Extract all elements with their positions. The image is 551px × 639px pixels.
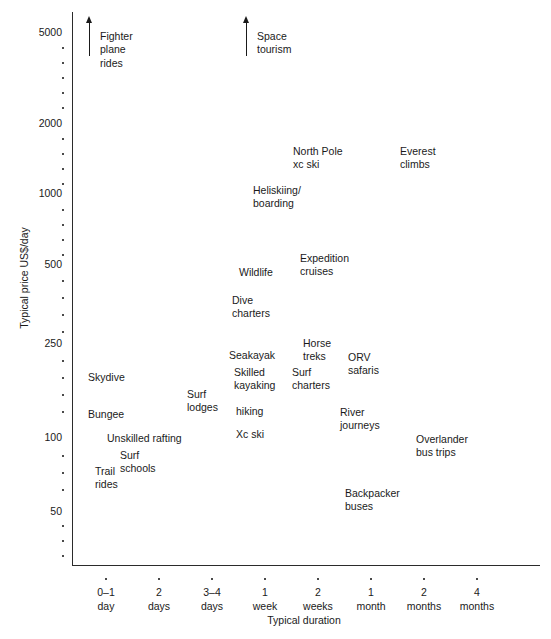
y-tick-minor-dot (62, 297, 64, 299)
data-label-xc-ski: Xc ski (236, 428, 264, 441)
y-tick-minor-dot (62, 107, 64, 109)
y-tick-minor-dot (62, 239, 64, 241)
y-tick-50: 50 (0, 506, 62, 517)
y-tick-label: 1000 (16, 188, 62, 199)
y-tick-500: 500 (0, 259, 62, 270)
y-tick-minor-dot (62, 168, 64, 170)
y-tick-label: 50 (16, 506, 62, 517)
data-label-unskilled-rafting: Unskilled rafting (107, 432, 182, 445)
x-tick-label: 4months (442, 586, 512, 613)
y-tick-minor-dot (62, 77, 64, 79)
y-tick-minor-dot (62, 224, 64, 226)
data-label-skilled-kayaking: Skilled kayaking (234, 366, 275, 393)
data-label-skydive: Skydive (88, 371, 125, 384)
x-tick-dot (105, 578, 107, 580)
y-tick-minor-dot (62, 377, 64, 379)
y-tick-minor-dot (62, 92, 64, 94)
data-label-river-journeys: River journeys (340, 406, 380, 433)
y-tick-minor-dot (62, 489, 64, 491)
y-tick-minor-dot (62, 540, 64, 542)
data-label-backpacker-buses: Backpacker buses (345, 487, 400, 514)
y-axis-title: Typical price US$/day (18, 208, 30, 348)
data-label-surf-charters: Surf charters (292, 366, 330, 393)
y-tick-minor-dot (62, 331, 64, 333)
y-tick-minor-dot (62, 47, 64, 49)
y-tick-label: 100 (16, 432, 62, 443)
x-tick-dot (476, 578, 478, 580)
fighter-plane-rides-arrow (85, 16, 94, 56)
data-label-dive-charters: Dive charters (232, 294, 270, 321)
data-label-fighter-plane-rides: Fighter plane rides (100, 30, 133, 70)
y-tick-minor-dot (62, 280, 64, 282)
y-tick-minor-dot (62, 394, 64, 396)
y-tick-minor-dot (62, 411, 64, 413)
x-tick-dot (423, 578, 425, 580)
y-tick-100: 100 (0, 432, 62, 443)
x-tick-dot (370, 578, 372, 580)
y-tick-minor-dot (62, 62, 64, 64)
y-tick-250: 250 (0, 338, 62, 349)
y-tick-label: 2000 (16, 118, 62, 129)
y-tick-minor-dot (62, 455, 64, 457)
data-label-heliskiing-boarding: Heliskiing/ boarding (253, 184, 301, 211)
y-tick-minor-dot (62, 555, 64, 557)
data-label-everest-climbs: Everest climbs (400, 145, 436, 172)
y-axis-line (72, 12, 73, 566)
data-label-north-pole-xc-ski: North Pole xc ski (293, 145, 343, 172)
arrow-shaft (246, 22, 247, 56)
data-label-hiking: hiking (236, 405, 263, 418)
y-tick-minor-dot (62, 138, 64, 140)
data-label-bungee: Bungee (88, 408, 124, 421)
data-label-surf-schools: Surf schools (120, 449, 156, 476)
x-tick-label-line2: months (442, 600, 512, 614)
y-tick-minor-dot (62, 360, 64, 362)
y-tick-minor-dot (62, 472, 64, 474)
y-tick-minor-dot (62, 314, 64, 316)
data-label-trail-rides: Trail rides (95, 465, 118, 492)
x-axis-line (72, 565, 540, 566)
y-tick-5000: 5000 (0, 27, 62, 38)
data-label-overlander-bus-trips: Overlander bus trips (416, 433, 468, 460)
x-tick-dot (211, 578, 213, 580)
x-tick-dot (264, 578, 266, 580)
data-label-expedition-cruises: Expedition cruises (300, 252, 349, 279)
data-label-orv-safaris: ORV safaris (348, 351, 379, 378)
y-tick-minor-dot (62, 183, 64, 185)
y-tick-minor-dot (62, 254, 64, 256)
chart-figure: 50002000100050025010050 0–1day2days3–4da… (0, 0, 551, 639)
y-tick-1000: 1000 (0, 188, 62, 199)
space-tourism-arrow (242, 16, 251, 56)
data-label-space-tourism: Space tourism (257, 30, 291, 57)
x-axis-title: Typical duration (229, 614, 379, 626)
data-label-wildlife: Wildlife (239, 266, 273, 279)
y-tick-minor-dot (62, 153, 64, 155)
y-tick-minor-dot (62, 525, 64, 527)
arrow-shaft (89, 22, 90, 56)
x-tick-dot (158, 578, 160, 580)
y-tick-label: 5000 (16, 27, 62, 38)
y-tick-2000: 2000 (0, 118, 62, 129)
data-label-seakayak: Seakayak (229, 349, 275, 362)
x-tick-dot (317, 578, 319, 580)
y-tick-minor-dot (62, 209, 64, 211)
data-label-horse-treks: Horse treks (303, 337, 331, 364)
x-tick-label-line1: 4 (442, 586, 512, 600)
data-label-surf-lodges: Surf lodges (187, 388, 218, 415)
